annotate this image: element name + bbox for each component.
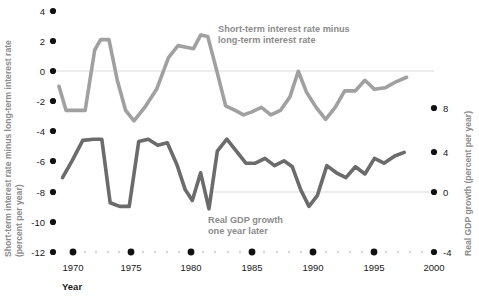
x-tick-dot-minor bbox=[107, 251, 109, 253]
annotation-interest-spread-line1: Short-term interest rate minus bbox=[218, 24, 350, 34]
y-tick-label-left: -4 bbox=[37, 126, 45, 137]
y-tick-dot bbox=[50, 98, 56, 104]
y-axis-left-title-line1: Short-term interest rate minus long-term… bbox=[3, 40, 13, 257]
x-tick-dot-minor bbox=[421, 251, 423, 253]
x-tick-dot-major bbox=[249, 249, 256, 256]
y-tick-dot bbox=[50, 8, 56, 14]
x-tick-dot-major bbox=[70, 249, 77, 256]
x-tick-dot-minor bbox=[300, 251, 302, 253]
y-tick-dot bbox=[50, 219, 56, 225]
y-tick-label-left: -10 bbox=[31, 217, 45, 228]
y-tick-label-right: 0 bbox=[443, 187, 448, 198]
y-tick-dot bbox=[50, 158, 56, 164]
x-tick-dot-minor bbox=[142, 251, 144, 253]
y-tick-label-right: 4 bbox=[443, 147, 448, 158]
x-tick-dot-major bbox=[128, 249, 135, 256]
y-tick-dot-right bbox=[431, 105, 437, 111]
x-tick-dot-minor bbox=[239, 251, 241, 253]
y-tick-label-right: -4 bbox=[443, 247, 451, 258]
x-tick-dot-minor bbox=[214, 251, 216, 253]
x-tick-dot-minor bbox=[325, 251, 327, 253]
chart-container: 4 2 0 -2 -4 -6 -8 -10 -12 8 4 0 -4 bbox=[0, 0, 479, 296]
x-tick-dot-minor bbox=[95, 251, 97, 253]
y-tick-dot bbox=[50, 68, 56, 74]
y-tick-dot bbox=[50, 249, 56, 255]
economics-line-chart: 4 2 0 -2 -4 -6 -8 -10 -12 8 4 0 -4 bbox=[0, 0, 479, 296]
x-tick-dot-minor bbox=[337, 251, 339, 253]
x-tick-label: 1975 bbox=[120, 262, 141, 273]
x-tick-dot-minor bbox=[276, 251, 278, 253]
x-tick-dot-minor bbox=[154, 251, 156, 253]
annotation-interest-spread-line2: long-term interest rate bbox=[218, 35, 316, 45]
x-tick-dot-minor bbox=[361, 251, 363, 253]
y-axis-left-title-line2: (percent per year) bbox=[14, 184, 24, 257]
x-tick-dot-minor bbox=[397, 251, 399, 253]
x-tick-label: 1980 bbox=[180, 262, 201, 273]
y-tick-dot bbox=[50, 38, 56, 44]
x-tick-dot-minor bbox=[409, 251, 411, 253]
y-tick-dot-right bbox=[431, 149, 437, 155]
y-tick-label-left: -6 bbox=[37, 156, 45, 167]
x-tick-dot-minor bbox=[84, 251, 86, 253]
x-tick-label: 1985 bbox=[241, 262, 262, 273]
x-tick-dot-minor bbox=[227, 251, 229, 253]
y-tick-label-left: 0 bbox=[40, 66, 45, 77]
x-tick-label: 1970 bbox=[62, 262, 83, 273]
x-tick-dot-major bbox=[371, 249, 378, 256]
annotation-gdp-growth-line2: one year later bbox=[208, 226, 268, 236]
x-tick-dot-minor bbox=[202, 251, 204, 253]
x-tick-dot-minor bbox=[166, 251, 168, 253]
y-tick-dot-right bbox=[431, 249, 437, 255]
x-tick-dot-minor bbox=[288, 251, 290, 253]
x-tick-dot-minor bbox=[118, 251, 120, 253]
y-tick-label-left: -2 bbox=[37, 96, 45, 107]
x-tick-label: 2000 bbox=[423, 262, 444, 273]
x-tick-dot-major bbox=[188, 249, 195, 256]
y-tick-dot-right bbox=[431, 189, 437, 195]
y-tick-label-right: 8 bbox=[443, 103, 448, 114]
x-tick-dot-minor bbox=[178, 251, 180, 253]
x-tick-label: 1995 bbox=[363, 262, 384, 273]
x-axis-title: Year bbox=[62, 281, 82, 292]
y-tick-dot bbox=[50, 128, 56, 134]
y-tick-dot bbox=[50, 189, 56, 195]
x-tick-dot-minor bbox=[385, 251, 387, 253]
y-tick-label-left: -12 bbox=[31, 247, 45, 258]
x-tick-dot-minor bbox=[263, 251, 265, 253]
y-tick-label-left: -8 bbox=[37, 187, 45, 198]
y-tick-label-left: 4 bbox=[40, 6, 45, 17]
y-tick-label-left: 2 bbox=[40, 36, 45, 47]
annotation-gdp-growth-line1: Real GDP growth bbox=[208, 215, 283, 225]
x-tick-dot-major bbox=[310, 249, 317, 256]
x-tick-dot-minor bbox=[349, 251, 351, 253]
x-tick-label: 1990 bbox=[302, 262, 323, 273]
y-axis-right-title: Real GDP growth (percent per year) bbox=[463, 111, 473, 256]
